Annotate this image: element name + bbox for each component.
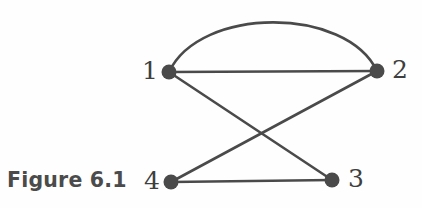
edge-4-3 (171, 180, 332, 182)
figure-caption: Figure 6.1 (7, 170, 127, 191)
node-3 (325, 173, 340, 188)
node-2 (370, 64, 385, 79)
edge-1-2-arc (169, 22, 377, 72)
node-1 (162, 65, 177, 80)
node-4 (164, 175, 179, 190)
figure-container: 1 2 3 4 Figure 6.1 (0, 0, 422, 208)
edge-1-3 (169, 72, 332, 180)
node-label-1: 1 (142, 58, 158, 83)
edge-2-4 (171, 71, 377, 182)
node-label-4: 4 (144, 168, 160, 193)
node-label-3: 3 (348, 166, 364, 191)
edge-1-2-straight (169, 71, 377, 72)
node-label-2: 2 (392, 57, 408, 82)
